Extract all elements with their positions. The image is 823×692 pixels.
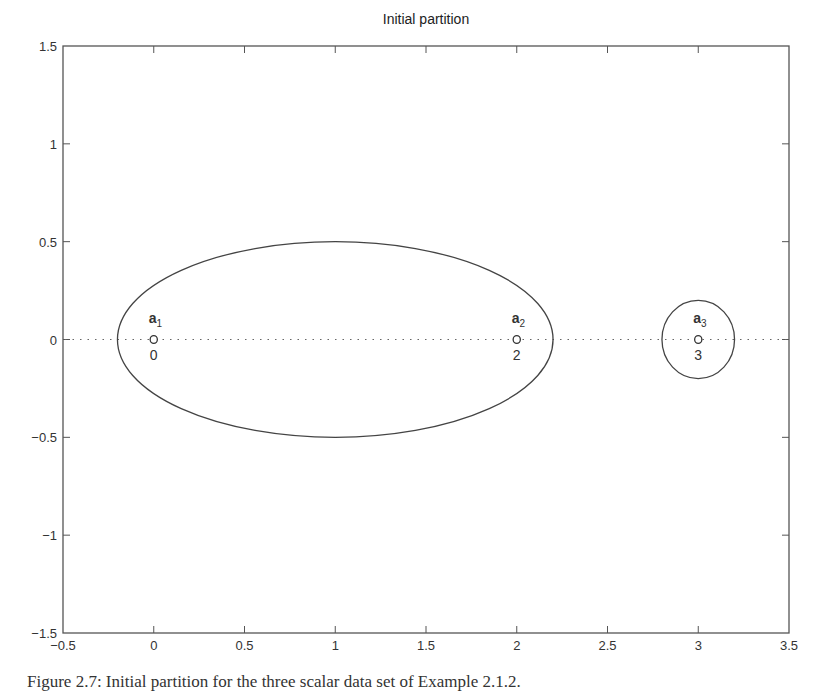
point-name-label: a2	[512, 310, 526, 329]
point-name-label: a3	[693, 310, 707, 329]
figure-caption: Figure 2.7: Initial partition for the th…	[27, 672, 521, 692]
x-tick-label: 0.5	[235, 638, 253, 653]
y-tick-label: 0	[50, 333, 57, 348]
x-tick-label: 2	[513, 638, 520, 653]
chart-title: Initial partition	[383, 11, 469, 27]
y-tick-label: 1	[50, 137, 57, 152]
circle-marker-icon	[150, 336, 157, 344]
x-tick-label: 1	[332, 638, 339, 653]
y-tick-label: −1	[42, 528, 57, 543]
x-tick-label: 2.5	[598, 638, 616, 653]
x-tick-label: 3	[695, 638, 702, 653]
x-tick-label: 3.5	[780, 638, 798, 653]
circle-marker-icon	[513, 336, 520, 344]
y-tick-label: 0.5	[39, 235, 57, 250]
point-value-label: 0	[150, 347, 158, 363]
circle-marker-icon	[695, 336, 702, 344]
x-tick-label: 1.5	[417, 638, 435, 653]
point-name-label: a1	[149, 310, 163, 329]
x-tick-label: 0	[150, 638, 157, 653]
y-tick-label: 1.5	[39, 39, 57, 54]
point-value-label: 2	[513, 347, 521, 363]
x-axis: −0.500.511.522.533.5	[50, 46, 798, 653]
point-value-label: 3	[694, 347, 702, 363]
data-points: a10a22a33	[149, 310, 707, 363]
y-tick-label: −1.5	[31, 626, 57, 641]
y-tick-label: −0.5	[31, 430, 57, 445]
